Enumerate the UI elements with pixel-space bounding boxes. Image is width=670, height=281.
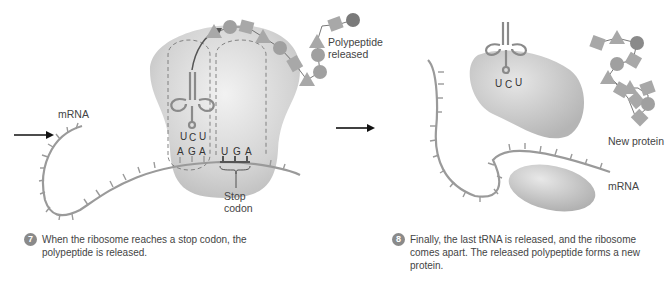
step-caption: When the ribosome reaches a stop codon, …: [42, 233, 257, 259]
step-badge: 8: [392, 233, 405, 246]
arrow-icon: [14, 131, 54, 139]
anticodon-base: U: [515, 77, 522, 88]
ribosome-large-subunit: [470, 50, 584, 138]
codon-base: A: [199, 146, 206, 157]
step-caption: Finally, the last tRNA is released, and …: [410, 233, 655, 272]
codon-base: G: [188, 146, 196, 157]
mrna-label-right: mRNA: [608, 180, 639, 192]
anticodon-base: C: [189, 132, 196, 143]
ribosome-small-subunit: [504, 157, 599, 218]
step-badge: 7: [24, 233, 37, 246]
mrna-label: mRNA: [58, 108, 89, 120]
new-protein-label: New protein: [608, 135, 664, 147]
new-protein: [589, 30, 655, 126]
stop-codon-base: A: [245, 146, 252, 157]
stop-codon-label: Stop codon: [224, 190, 264, 214]
stop-codon-base: G: [233, 146, 241, 157]
anticodon-base: U: [199, 131, 206, 142]
anticodon-base: C: [505, 79, 512, 90]
anticodon-base: U: [495, 78, 502, 89]
anticodon-base: U: [180, 131, 187, 142]
arrow-icon: [336, 124, 375, 132]
stop-codon-base: U: [221, 146, 228, 157]
polypeptide-released-label: Polypeptide released: [328, 36, 388, 60]
codon-base: A: [177, 146, 184, 157]
